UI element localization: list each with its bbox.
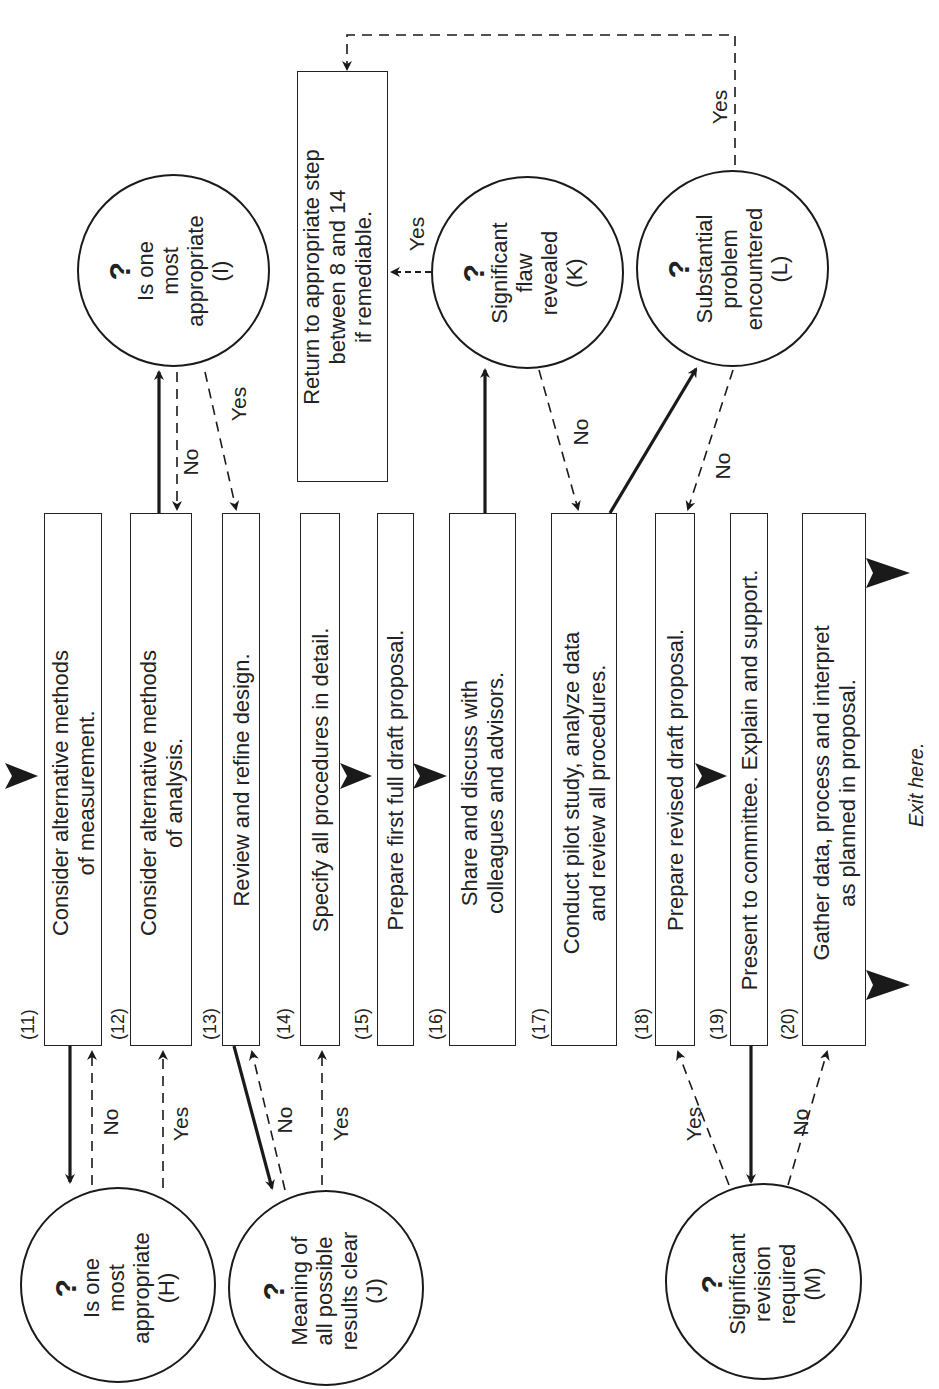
edge-label-l-yes: Yes: [708, 90, 732, 124]
step-text-19: Present to committee. Explain and suppor…: [737, 514, 763, 1047]
step-number-18: (18): [632, 1000, 652, 1040]
step-16-line-1: Share and discuss with: [457, 527, 483, 1060]
step-17-line-1: Conduct pilot study, analyze data: [559, 527, 585, 1060]
step-number-16: (16): [426, 1000, 446, 1040]
step-19-line-1: Present to committee. Explain and suppor…: [737, 514, 763, 1047]
decision-j-text: ? Meaning of all possible results clear …: [261, 1193, 391, 1389]
question-mark-icon: ?: [261, 1193, 287, 1389]
question-mark-icon: ?: [107, 175, 133, 368]
decision-circle-h: ? Is one most appropriate (H): [20, 1187, 216, 1383]
arrow-l-yes-to-return: [347, 35, 735, 165]
decision-h-line-4: (H): [154, 1190, 179, 1386]
step-box-17: Conduct pilot study, analyze data and re…: [551, 513, 617, 1046]
step-15-line-1: Prepare first full draft proposal.: [383, 514, 409, 1047]
step-box-15: Prepare first full draft proposal.: [377, 513, 414, 1046]
edge-label-i-yes: Yes: [227, 387, 251, 421]
flow-arrowhead-18-19: [695, 763, 727, 789]
return-line-3: if remediable.: [351, 72, 377, 483]
edge-label-j-yes: Yes: [329, 1107, 353, 1141]
step-text-20: Gather data, process and interpret as pl…: [809, 527, 861, 1060]
decision-circle-l: ? Substantial problem encountered (L): [636, 170, 829, 367]
decision-l-line-3: encountered: [742, 173, 767, 366]
edge-label-h-yes: Yes: [169, 1107, 193, 1141]
decision-l-line-4: (L): [767, 173, 792, 366]
decision-k-line-2: flaw: [512, 177, 537, 370]
decision-m-line-4: (M): [800, 1186, 825, 1383]
step-box-19: Present to committee. Explain and suppor…: [730, 513, 768, 1046]
step-text-16: Share and discuss with colleagues and ad…: [457, 527, 509, 1060]
decision-circle-k: ? Significant flaw revealed (K): [431, 176, 624, 369]
step-20-line-2: as planned in proposal.: [835, 527, 861, 1060]
step-13-line-1: Review and refine design.: [229, 514, 255, 1047]
step-18-line-1: Prepare revised draft proposal.: [663, 514, 689, 1047]
decision-j-line-2: all possible: [312, 1193, 337, 1389]
step-number-14: (14): [274, 1000, 294, 1040]
step-16-line-2: colleagues and advisors.: [483, 527, 509, 1060]
decision-j-line-4: (J): [362, 1193, 387, 1389]
step-text-15: Prepare first full draft proposal.: [383, 514, 409, 1047]
decision-h-line-1: Is one: [79, 1190, 104, 1386]
decision-circle-i: ? Is one most appropriate (I): [77, 174, 270, 367]
edge-label-k-yes: Yes: [405, 217, 429, 251]
decision-l-line-1: Substantial: [692, 173, 717, 366]
step-box-11: Consider alternative methods of measurem…: [44, 513, 102, 1046]
step-12-line-2: of analysis.: [162, 527, 188, 1060]
edge-label-k-no: No: [569, 419, 593, 446]
exit-label: Exit here.: [905, 737, 929, 827]
decision-i-line-3: appropriate: [183, 175, 208, 368]
step-12-line-1: Consider alternative methods: [136, 527, 162, 1060]
question-mark-icon: ?: [699, 1186, 725, 1383]
edge-label-m-yes: Yes: [682, 1107, 706, 1141]
step-17-line-2: and review all procedures.: [585, 527, 611, 1060]
decision-k-text: ? Significant flaw revealed (K): [461, 177, 591, 370]
step-number-15: (15): [352, 1000, 372, 1040]
decision-i-line-1: Is one: [133, 175, 158, 368]
step-number-19: (19): [707, 1000, 727, 1040]
decision-k-line-1: Significant: [487, 177, 512, 370]
decision-i-text: ? Is one most appropriate (I): [107, 175, 237, 368]
arrow-l-no-to-18: [688, 370, 733, 509]
step-11-line-1: Consider alternative methods: [48, 527, 74, 1060]
decision-h-line-2: most: [104, 1190, 129, 1386]
return-line-2: between 8 and 14: [325, 72, 351, 483]
step-box-18: Prepare revised draft proposal.: [655, 513, 695, 1046]
step-box-13: Review and refine design.: [222, 513, 260, 1046]
decision-j-line-3: results clear: [337, 1193, 362, 1389]
decision-circle-j: ? Meaning of all possible results clear …: [228, 1190, 424, 1386]
decision-m-line-1: Significant: [725, 1186, 750, 1383]
step-14-line-1: Specify all procedures in detail.: [308, 514, 334, 1047]
edge-label-l-no: No: [711, 453, 735, 480]
step-20-line-1: Gather data, process and interpret: [809, 527, 835, 1060]
decision-h-text: ? Is one most appropriate (H): [53, 1190, 183, 1386]
decision-m-line-3: required: [775, 1186, 800, 1383]
decision-l-text: ? Substantial problem encountered (L): [666, 173, 796, 366]
decision-k-line-3: revealed: [537, 177, 562, 370]
return-line-1: Return to appropriate step: [299, 72, 325, 483]
step-box-14: Specify all procedures in detail.: [300, 513, 340, 1046]
decision-h-line-3: appropriate: [129, 1190, 154, 1386]
decision-m-line-2: revision: [750, 1186, 775, 1383]
step-text-13: Review and refine design.: [229, 514, 255, 1047]
step-text-18: Prepare revised draft proposal.: [663, 514, 689, 1047]
return-box: Return to appropriate step between 8 and…: [297, 71, 388, 482]
step-text-14: Specify all procedures in detail.: [308, 514, 334, 1047]
step-number-13: (13): [200, 1000, 220, 1040]
step-number-11: (11): [18, 1000, 38, 1040]
decision-j-line-1: Meaning of: [287, 1193, 312, 1389]
decision-l-line-2: problem: [717, 173, 742, 366]
step-box-16: Share and discuss with colleagues and ad…: [449, 513, 516, 1046]
edge-label-h-no: No: [99, 1109, 123, 1136]
step-text-11: Consider alternative methods of measurem…: [48, 527, 100, 1060]
decision-k-line-4: (K): [562, 177, 587, 370]
edge-label-j-no: No: [273, 1107, 297, 1134]
step-box-20: Gather data, process and interpret as pl…: [802, 513, 866, 1046]
decision-i-line-4: (I): [208, 175, 233, 368]
decision-m-text: ? Significant revision required (M): [699, 1186, 829, 1383]
step-text-12: Consider alternative methods of analysis…: [136, 527, 188, 1060]
step-box-12: Consider alternative methods of analysis…: [130, 513, 192, 1046]
decision-circle-m: ? Significant revision required (M): [665, 1183, 862, 1380]
return-box-text: Return to appropriate step between 8 and…: [299, 72, 377, 483]
flow-arrowhead-20-exit-bottom: [866, 970, 910, 1000]
step-text-17: Conduct pilot study, analyze data and re…: [559, 527, 611, 1060]
